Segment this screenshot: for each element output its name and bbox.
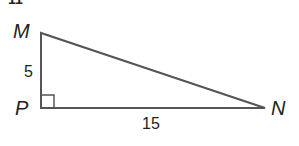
vertex-label-m: M: [13, 20, 30, 42]
right-triangle: [41, 33, 265, 108]
problem-number-fragment: 11: [8, 0, 23, 7]
side-label-mp: 5: [24, 63, 33, 80]
right-angle-marker: [41, 95, 54, 108]
vertex-label-n: N: [271, 97, 286, 119]
vertex-label-p: P: [15, 97, 29, 119]
triangle-diagram: 11 M P N 5 15: [0, 0, 299, 146]
side-label-pn: 15: [142, 115, 160, 132]
